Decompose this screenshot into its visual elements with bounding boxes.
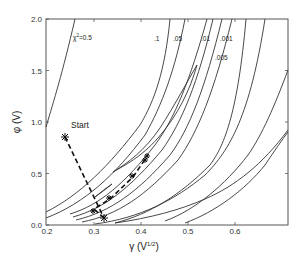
x-tick-0-5: 0.5 xyxy=(182,227,194,236)
contour-0-1-a xyxy=(46,19,170,212)
x-tick-labels: 0.2 0.3 0.4 0.5 0.6 xyxy=(41,227,241,236)
y-tick-1: 1.0 xyxy=(31,118,43,127)
x-tick-0-6: 0.6 xyxy=(229,227,241,236)
contour-labels: χ2=0.5 .1 .05 .01 .001 .005 xyxy=(73,33,233,61)
end-marker-icon xyxy=(100,214,108,222)
contour-0-05-a xyxy=(70,19,207,214)
x-tick-0-2: 0.2 xyxy=(41,227,53,236)
label-0-01: .01 xyxy=(201,35,210,42)
label-0-001: .001 xyxy=(220,35,233,42)
y-tick-labels: 0.0 0.5 1.0 1.5 2.0 xyxy=(31,15,43,230)
y-axis-title: φ (V) xyxy=(11,111,22,134)
contour-outer-4 xyxy=(185,132,288,223)
label-0-1: .1 xyxy=(154,35,160,42)
marker-icon xyxy=(106,195,112,201)
contour-0-05-b xyxy=(73,19,213,217)
contour-outermost xyxy=(115,130,288,223)
y-tick-2: 2.0 xyxy=(31,15,43,24)
chart-canvas: 0.0 0.5 1.0 1.5 2.0 0.2 0.3 0.4 0.5 0.6 … xyxy=(0,0,303,259)
start-label: Start xyxy=(71,120,90,130)
y-tick-1-5: 1.5 xyxy=(31,67,43,76)
contour-0-005 xyxy=(113,65,197,172)
contour-chart: 0.0 0.5 1.0 1.5 2.0 0.2 0.3 0.4 0.5 0.6 … xyxy=(0,0,303,259)
contour-outer-2 xyxy=(95,19,265,224)
label-0-05: .05 xyxy=(173,35,182,42)
label-0-005: .005 xyxy=(215,54,228,61)
contour-chi-0-5 xyxy=(46,19,75,127)
x-axis-title: γ (V1/2) xyxy=(129,241,158,252)
contour-0-001 xyxy=(82,19,232,222)
y-tick-0-5: 0.5 xyxy=(31,170,43,179)
start-marker-icon xyxy=(61,133,69,141)
x-tick-0-3: 0.3 xyxy=(88,227,100,236)
x-tick-0-4: 0.4 xyxy=(135,227,147,236)
label-chi: χ2=0.5 xyxy=(73,33,92,42)
